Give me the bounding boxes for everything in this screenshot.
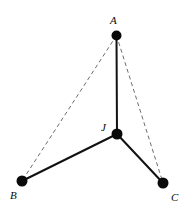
edge-j-b (22, 134, 117, 181)
vertex-dot-b (17, 176, 28, 187)
vertex-label-c: C (171, 191, 179, 203)
edge-a-b (22, 36, 117, 182)
vertex-dot-j (112, 129, 123, 140)
edge-a-c (117, 36, 164, 184)
edge-j-c (117, 134, 163, 183)
vertex-dot-c (158, 178, 169, 189)
vertex-label-j: J (101, 121, 107, 133)
solid-edge-group (22, 36, 163, 184)
diagram-svg: A J B C (0, 0, 190, 210)
vertex-label-b: B (10, 189, 17, 201)
vertex-label-a: A (109, 14, 117, 26)
vertex-dot-a (112, 31, 122, 41)
geometry-diagram-canvas: A J B C (0, 0, 190, 210)
edge-a-j (117, 36, 118, 135)
